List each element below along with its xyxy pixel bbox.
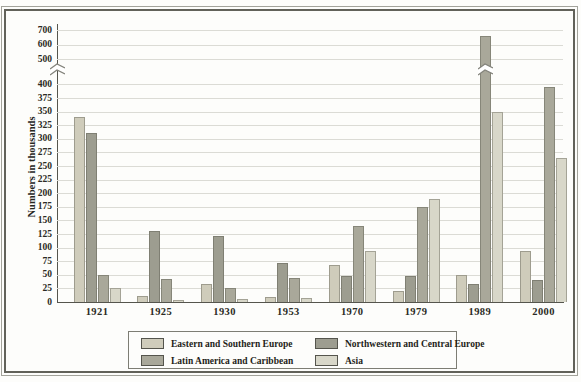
legend-label: Asia xyxy=(345,356,363,366)
legend-swatch-icon xyxy=(141,338,164,349)
bar-2000-series3 xyxy=(544,87,555,302)
legend-label: Eastern and Southern Europe xyxy=(171,339,293,349)
bar-1930-series4 xyxy=(237,299,248,302)
legend-swatch-icon xyxy=(315,338,338,349)
bar-1921-series2 xyxy=(86,133,97,302)
y-axis-tick-label: 400 xyxy=(14,79,52,90)
bar-1921-series4 xyxy=(110,288,121,302)
x-axis-category-label: 1921 xyxy=(67,306,127,317)
bar-1979-series3 xyxy=(417,207,428,302)
y-axis-tick-label: 350 xyxy=(14,106,52,117)
legend-item-2: Northwestern and Central Europe xyxy=(315,336,484,351)
bar-1925-series3 xyxy=(161,279,172,302)
bar-1930-series2 xyxy=(213,236,224,302)
y-axis-tick-label: 175 xyxy=(14,201,52,212)
y-axis-break-icon xyxy=(50,61,65,79)
x-axis-category-label: 1970 xyxy=(322,306,382,317)
bar-1921-series1 xyxy=(74,117,85,302)
legend-item-1: Eastern and Southern Europe xyxy=(141,336,315,351)
bar-1925-series1 xyxy=(137,296,148,303)
bar-1953-series4 xyxy=(301,298,312,302)
bar-1970-series4 xyxy=(365,251,376,302)
y-axis-tick-label: 150 xyxy=(14,215,52,226)
legend-label: Northwestern and Central Europe xyxy=(345,339,484,349)
y-axis-tick-label: 375 xyxy=(14,93,52,104)
bar-1930-series3 xyxy=(225,288,236,302)
y-axis-tick-label: 250 xyxy=(14,161,52,172)
bar-2000-series4 xyxy=(556,158,567,302)
bar-1989-series2 xyxy=(468,284,479,302)
x-axis-category-label: 2000 xyxy=(514,306,574,317)
y-axis-tick-label: 600 xyxy=(14,39,52,50)
bar-1979-series4 xyxy=(429,199,440,302)
x-axis-category-label: 1979 xyxy=(386,306,446,317)
y-axis-tick-label: 25 xyxy=(14,283,52,294)
bar-1953-series1 xyxy=(265,297,276,302)
y-axis-tick-label: 700 xyxy=(14,25,52,36)
bar-1970-series1 xyxy=(329,265,340,302)
x-axis-category-label: 1953 xyxy=(258,306,318,317)
legend-label: Latin America and Caribbean xyxy=(171,356,293,366)
bar-1970-series2 xyxy=(341,276,352,302)
legend-box: Eastern and Southern EuropeNorthwestern … xyxy=(128,331,457,369)
bar-1930-series1 xyxy=(201,284,212,303)
x-axis-category-label: 1989 xyxy=(450,306,510,317)
bar-1970-series3 xyxy=(353,226,364,302)
bar-1921-series3 xyxy=(98,275,109,302)
y-axis-tick-label: 100 xyxy=(14,242,52,253)
bar-1953-series3 xyxy=(289,278,300,302)
bar-1979-series2 xyxy=(405,276,416,302)
x-axis-category-label: 1925 xyxy=(131,306,191,317)
y-axis-tick-label: 75 xyxy=(14,256,52,267)
y-axis-tick-label: 200 xyxy=(14,188,52,199)
y-axis-tick-label: 500 xyxy=(14,54,52,65)
bar-1979-series1 xyxy=(393,291,404,302)
y-axis-tick-label: 325 xyxy=(14,120,52,131)
y-axis-tick-label: 50 xyxy=(14,269,52,280)
bar-1989-series4 xyxy=(492,112,503,302)
bar-break-icon xyxy=(478,61,493,79)
y-axis-tick-label: 225 xyxy=(14,174,52,185)
y-axis-tick-label: 125 xyxy=(14,229,52,240)
y-axis-tick-label: 275 xyxy=(14,147,52,158)
legend-item-3: Latin America and Caribbean xyxy=(141,353,315,368)
legend-grid: Eastern and Southern EuropeNorthwestern … xyxy=(129,332,456,368)
legend-swatch-icon xyxy=(141,355,164,366)
x-axis-category-label: 1930 xyxy=(195,306,255,317)
bar-1989-series1 xyxy=(456,275,467,302)
gridline xyxy=(57,30,563,31)
x-axis-line xyxy=(57,302,564,303)
legend-item-4: Asia xyxy=(315,353,484,368)
bar-2000-series2 xyxy=(532,280,543,302)
bar-1925-series2 xyxy=(149,231,160,302)
bar-1953-series2 xyxy=(277,263,288,302)
legend-swatch-icon xyxy=(315,355,338,366)
bar-2000-series1 xyxy=(520,251,531,302)
bar-1925-series4 xyxy=(173,300,184,302)
immigration-bar-chart: Numbers in thousands 0255075100125150175… xyxy=(0,0,581,382)
y-axis-tick-label: 300 xyxy=(14,133,52,144)
y-axis-tick-label: 0 xyxy=(14,297,52,308)
